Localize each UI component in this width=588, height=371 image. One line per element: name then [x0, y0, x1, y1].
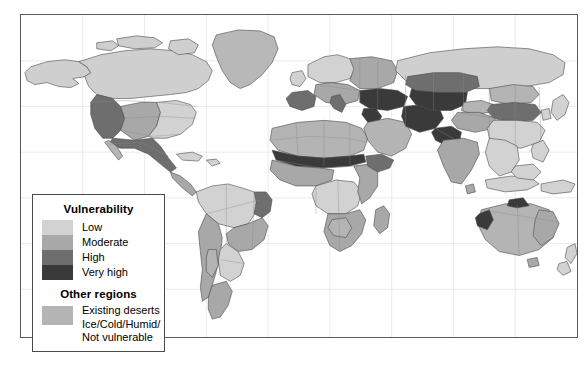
region-tasmania — [527, 257, 539, 267]
legend-label-existing-deserts: Existing deserts — [82, 304, 160, 318]
legend-label-very-high: Very high — [73, 265, 128, 280]
figure-container: Vulnerability Low Moderate High Very hig… — [0, 0, 588, 371]
legend-label-ice-cold-humid: Ice/Cold/Humid/ — [82, 318, 160, 332]
region-eastern-europe — [350, 57, 398, 89]
swatch-high — [42, 250, 73, 265]
legend-label-moderate: Moderate — [73, 235, 128, 250]
legend-item-low: Low — [42, 220, 157, 235]
region-sahara-desert — [270, 120, 368, 158]
legend-label-high: High — [73, 250, 105, 265]
legend-item-high: High — [42, 250, 157, 265]
swatch-very-high — [42, 265, 73, 280]
vulnerability-swatch-list: Low Moderate High Very high — [42, 220, 157, 280]
map-legend: Vulnerability Low Moderate High Very hig… — [32, 194, 165, 352]
swatch-other-regions — [42, 306, 73, 325]
region-kazakh-steppe — [406, 73, 480, 93]
legend-item-moderate: Moderate — [42, 235, 157, 250]
legend-label-low: Low — [73, 220, 102, 235]
legend-item-very-high: Very high — [42, 265, 157, 280]
swatch-low — [42, 220, 73, 235]
swatch-moderate — [42, 235, 73, 250]
legend-title: Vulnerability — [42, 203, 157, 215]
legend-item-other-regions: Existing deserts Ice/Cold/Humid/ Not vul… — [42, 304, 157, 345]
region-korea — [541, 108, 551, 120]
region-mongolia-gobi — [489, 85, 539, 105]
region-sri-lanka — [465, 184, 475, 194]
legend-label-not-vulnerable: Not vulnerable — [82, 331, 160, 345]
legend-other-labels: Existing deserts Ice/Cold/Humid/ Not vul… — [73, 304, 160, 345]
legend-second-title: Other regions — [42, 288, 157, 300]
